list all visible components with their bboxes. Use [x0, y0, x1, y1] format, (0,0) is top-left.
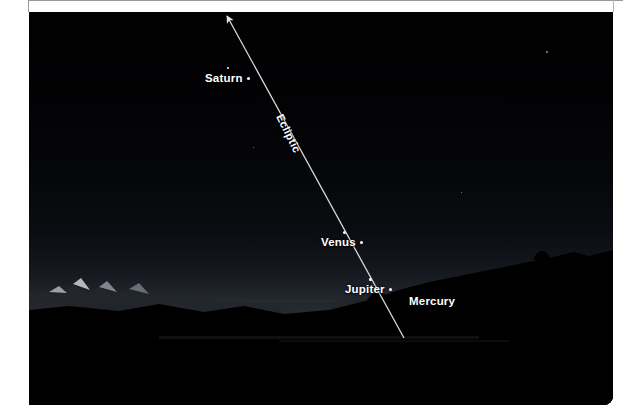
- frame-rule-right: [613, 0, 614, 12]
- frame-rule-top: [28, 0, 623, 1]
- venus-dot-glyph: [360, 241, 363, 244]
- frame-rule-left: [28, 0, 29, 12]
- label-venus: Venus: [321, 236, 363, 248]
- label-saturn: Saturn: [205, 72, 250, 84]
- label-jupiter: Jupiter: [345, 283, 392, 295]
- saturn-dot-glyph: [247, 77, 250, 80]
- mountain-ridge-silhouette: [29, 240, 613, 405]
- label-mercury: Mercury: [409, 295, 455, 307]
- label-mercury-text: Mercury: [409, 295, 455, 307]
- planet-marker-venus: [343, 231, 346, 234]
- figure-page: Saturn Venus Jupiter Mercury Ecliptic: [0, 0, 623, 417]
- jupiter-dot-glyph: [389, 288, 392, 291]
- star-point: [546, 51, 548, 53]
- label-jupiter-text: Jupiter: [345, 283, 385, 295]
- sky-photograph: Saturn Venus Jupiter Mercury Ecliptic: [29, 12, 613, 405]
- label-venus-text: Venus: [321, 236, 356, 248]
- label-saturn-text: Saturn: [205, 72, 243, 84]
